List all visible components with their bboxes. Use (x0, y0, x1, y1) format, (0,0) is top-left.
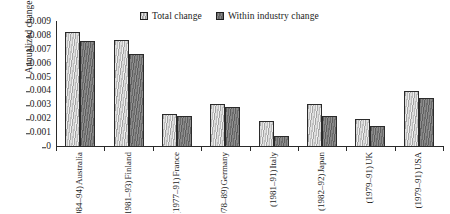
x-axis-separator (250, 146, 251, 151)
bar-total-change (162, 114, 177, 147)
y-axis-tick-label: 0 (46, 142, 51, 152)
x-axis-separator (395, 146, 396, 151)
bar-total-change (114, 40, 129, 147)
x-axis-category-period: (1978–89) (221, 187, 230, 214)
bar-group (298, 22, 346, 147)
bar-within-industry-change (419, 98, 434, 147)
y-axis-tick-label: 0.004 (30, 87, 51, 97)
legend-item-total-change: Total change (140, 11, 202, 21)
x-axis-category-country: Italy (269, 152, 278, 169)
bar-group (201, 22, 249, 147)
x-axis-category-country: Finland (124, 152, 133, 180)
legend-label-within-industry-change: Within industry change (228, 11, 319, 21)
chart-figure: Total change Within industry change Annu… (0, 0, 450, 213)
bar-groups (56, 22, 443, 147)
y-axis-tick-mark (26, 133, 30, 134)
x-axis-category: Finland(1981–93) (104, 152, 152, 210)
y-axis-tick-mark (26, 78, 30, 79)
bar-total-change (404, 91, 419, 147)
plot-area: 00.0010.0020.0030.0040.0050.0060.0070.00… (56, 22, 443, 147)
x-axis-separator (56, 146, 57, 151)
y-axis-tick-label: 0.005 (30, 73, 51, 83)
bar-total-change (355, 119, 370, 147)
x-axis-separator (153, 146, 154, 151)
y-axis-tick-label: 0.007 (30, 45, 51, 55)
x-axis-separator (346, 146, 347, 151)
y-axis-tick-label: 0.003 (30, 101, 51, 111)
x-axis-category-period: (1979–91) (414, 171, 423, 209)
x-axis-category-period: (1981–93) (124, 181, 133, 213)
y-axis-tick-label: 0.009 (30, 17, 51, 27)
x-axis-labels: Australia(1984–94)Finland(1981–93)France… (56, 152, 443, 210)
y-axis-tick-mark (26, 22, 30, 23)
bar-total-change (307, 104, 322, 147)
y-axis-tick-label: 0.006 (30, 59, 51, 69)
y-axis-tick-label: 0.008 (30, 31, 51, 41)
x-axis-category-period: (1977–91) (172, 178, 181, 214)
x-axis-category-country: UK (366, 152, 375, 165)
x-axis-category: UK(1979–91) (346, 152, 394, 210)
bar-total-change (210, 104, 225, 147)
x-axis-category: Germany(1978–89) (201, 152, 249, 210)
y-axis-tick-label: 0.002 (30, 114, 51, 124)
x-axis-category-country: Japan (317, 152, 326, 173)
bar-within-industry-change (177, 116, 192, 147)
legend-item-within-industry-change: Within industry change (216, 11, 319, 21)
legend-swatch-total-change (140, 12, 148, 20)
bar-within-industry-change (274, 136, 289, 147)
bar-group (56, 22, 104, 147)
y-axis-tick-mark (26, 91, 30, 92)
y-axis-tick-mark (42, 147, 46, 148)
bar-group (250, 22, 298, 147)
x-axis-category: France(1977–91) (153, 152, 201, 210)
bar-total-change (259, 121, 274, 147)
bar-within-industry-change (80, 41, 95, 147)
x-axis-category: Italy(1981–91) (250, 152, 298, 210)
x-axis-category-country: Germany (221, 152, 230, 186)
x-axis-category: USA(1979–91) (395, 152, 443, 210)
y-axis-tick-label: 0.001 (30, 128, 51, 138)
bar-within-industry-change (225, 107, 240, 147)
bar-within-industry-change (370, 126, 385, 147)
bar-group (153, 22, 201, 147)
legend-label-total-change: Total change (152, 11, 202, 21)
x-axis-category-country: USA (414, 152, 423, 170)
y-axis-tick-mark (26, 50, 30, 51)
x-axis-separator (201, 146, 202, 151)
y-axis-tick-mark (26, 64, 30, 65)
x-axis-category-country: France (172, 152, 181, 177)
x-axis-category-period: (1982–92) (317, 174, 326, 212)
x-axis-category: Japan(1982–92) (298, 152, 346, 210)
x-axis-category-period: (1984–94) (75, 186, 84, 213)
x-axis-separator (104, 146, 105, 151)
y-axis-tick-mark (26, 105, 30, 106)
x-axis-separator (298, 146, 299, 151)
bar-total-change (65, 32, 80, 147)
y-axis-tick-mark (26, 119, 30, 120)
bar-within-industry-change (322, 116, 337, 147)
legend-swatch-within-industry-change (216, 12, 224, 20)
bar-within-industry-change (129, 54, 144, 147)
bar-group (395, 22, 443, 147)
x-axis-category: Australia(1984–94) (56, 152, 104, 210)
bar-group (346, 22, 394, 147)
y-axis-tick-mark (26, 36, 30, 37)
x-axis-separator (443, 146, 444, 151)
x-axis-category-country: Australia (75, 152, 84, 185)
x-axis-category-period: (1979–91) (366, 166, 375, 204)
x-axis-category-period: (1981–91) (269, 170, 278, 208)
bar-group (104, 22, 152, 147)
